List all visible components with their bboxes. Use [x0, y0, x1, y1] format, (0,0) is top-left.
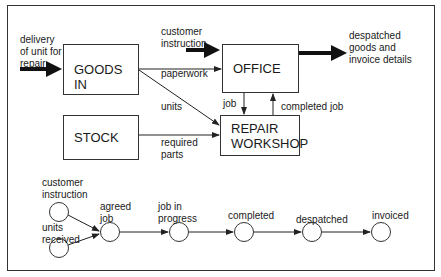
- paperwork-label: paperwork: [161, 68, 208, 80]
- state-agreed-job-label: agreed job: [100, 201, 131, 225]
- units-label: units: [161, 101, 182, 113]
- completed-job-label: completed job: [281, 101, 343, 113]
- job-label: job: [223, 98, 236, 110]
- state-invoiced-label: invoiced: [372, 210, 409, 222]
- goods-in-box: GOODS IN: [63, 44, 139, 95]
- delivery-label: delivery of unit for repair: [20, 34, 62, 70]
- state-completed-label: completed: [228, 210, 274, 222]
- required-parts-label: required parts: [161, 137, 198, 161]
- state-despatched-label: despatched: [296, 214, 348, 226]
- repair-label: REPAIR: [231, 121, 278, 136]
- stock-label: STOCK: [74, 130, 119, 145]
- state-job-in-progress-label: job in progress: [158, 201, 197, 225]
- repair-workshop-box: REPAIR WORKSHOP: [220, 115, 300, 156]
- workshop-label: WORKSHOP: [231, 136, 308, 151]
- stock-box: STOCK: [63, 115, 139, 160]
- despatched-goods-label: despatched goods and invoice details: [349, 30, 412, 66]
- customer-instruction-label: customer instruction: [161, 26, 207, 50]
- state-customer-instruction-label: customer instruction: [42, 177, 88, 201]
- office-label: OFFICE: [233, 61, 281, 76]
- office-box: OFFICE: [222, 44, 299, 93]
- state-units-received-label: units received: [42, 222, 80, 246]
- goods-in-label: GOODS IN: [74, 62, 138, 92]
